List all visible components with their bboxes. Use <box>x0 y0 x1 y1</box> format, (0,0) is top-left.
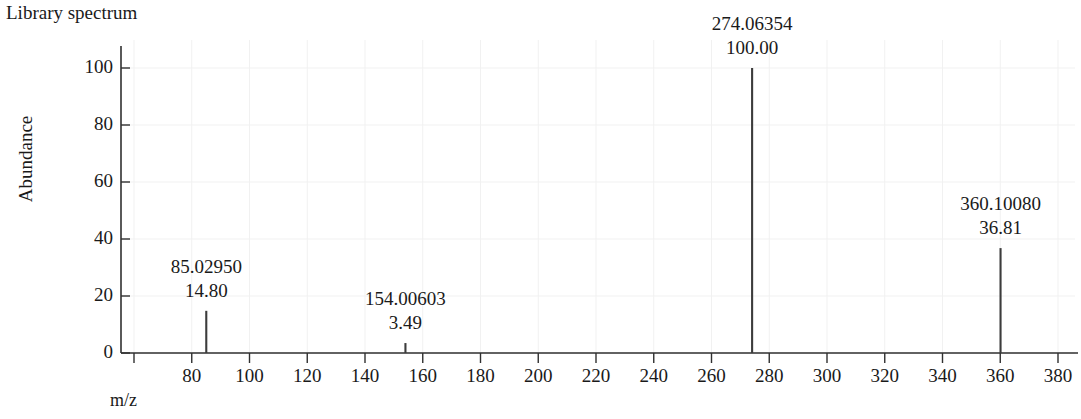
peak-mz-value: 274.06354 <box>667 12 837 36</box>
x-tick-label: 180 <box>451 365 511 387</box>
x-tick-label: 160 <box>393 365 453 387</box>
x-tick-label: 100 <box>220 365 280 387</box>
y-tick-label: 20 <box>61 284 113 306</box>
x-tick-label: 260 <box>682 365 742 387</box>
y-tick-label: 0 <box>61 341 113 363</box>
y-tick-label: 40 <box>61 227 113 249</box>
x-tick-label: 120 <box>277 365 337 387</box>
x-tick-label: 200 <box>508 365 568 387</box>
peak-abundance-value: 100.00 <box>667 36 837 60</box>
peak-mz-value: 360.10080 <box>916 192 1081 216</box>
peak-mz-value: 154.00603 <box>320 287 490 311</box>
y-tick-label: 80 <box>61 113 113 135</box>
x-tick-label: 80 <box>162 365 222 387</box>
x-tick-label: 320 <box>855 365 915 387</box>
x-tick-label: 360 <box>970 365 1030 387</box>
peak-label: 154.006033.49 <box>320 287 490 335</box>
x-tick-label: 140 <box>335 365 395 387</box>
x-tick-label: 380 <box>1028 365 1081 387</box>
peak-mz-value: 85.02950 <box>121 255 291 279</box>
x-tick-label: 240 <box>624 365 684 387</box>
peak-abundance-value: 3.49 <box>320 311 490 335</box>
peak-label: 85.0295014.80 <box>121 255 291 303</box>
x-tick-label: 280 <box>739 365 799 387</box>
peak-abundance-value: 36.81 <box>916 216 1081 240</box>
x-tick-label: 340 <box>913 365 973 387</box>
x-tick-label: 220 <box>566 365 626 387</box>
x-tick-label: 300 <box>797 365 857 387</box>
mass-spectrum-chart: Library spectrum Abundance m/z 020406080… <box>0 0 1081 419</box>
peak-label: 274.06354100.00 <box>667 12 837 60</box>
y-tick-label: 100 <box>61 56 113 78</box>
y-tick-label: 60 <box>61 170 113 192</box>
peak-abundance-value: 14.80 <box>121 279 291 303</box>
peak-label: 360.1008036.81 <box>916 192 1081 240</box>
